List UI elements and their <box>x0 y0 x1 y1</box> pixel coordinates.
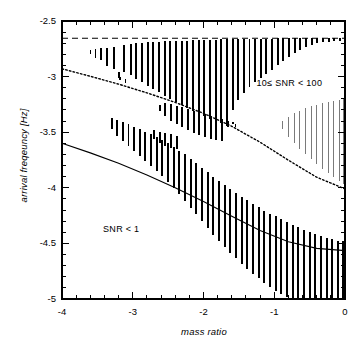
bar-mark <box>220 39 222 123</box>
bar-mark <box>215 117 217 140</box>
bar-mark <box>320 236 322 299</box>
bar-mark <box>184 154 186 201</box>
bar-mark <box>164 133 166 145</box>
bar-mark <box>227 121 229 127</box>
x-tick-label: -2 <box>189 306 219 317</box>
y-tick-label: -4.5 <box>22 237 56 248</box>
bar-mark <box>277 38 279 65</box>
y-tick-label: -3.5 <box>22 126 56 137</box>
bar-mark <box>95 49 96 58</box>
bar-mark <box>326 238 328 299</box>
bar-mark <box>209 40 211 119</box>
bar-mark <box>190 159 192 208</box>
bar-mark <box>271 39 273 70</box>
bar-mark <box>232 39 234 110</box>
bar-mark <box>237 39 239 100</box>
bar-mark <box>343 99 344 184</box>
bar-mark <box>252 204 254 274</box>
bar-mark <box>249 39 251 87</box>
bar-mark <box>303 230 305 300</box>
bar-mark <box>294 113 295 143</box>
bar-mark <box>135 43 137 79</box>
bar-mark <box>164 41 166 95</box>
bar-mark <box>153 130 155 139</box>
bar-mark <box>150 134 152 165</box>
bar-mark <box>241 197 243 264</box>
bar-mark <box>128 124 130 146</box>
bar-mark <box>311 38 313 45</box>
bar-mark <box>309 232 311 299</box>
bar-mark <box>337 241 339 299</box>
chart-canvas <box>0 0 355 343</box>
bar-mark <box>100 48 102 60</box>
bar-mark <box>176 106 178 125</box>
bar-mark <box>125 79 126 83</box>
bar-mark <box>339 100 340 181</box>
bar-mark <box>198 112 200 135</box>
bar-mark <box>282 121 283 129</box>
bar-mark <box>294 38 296 53</box>
bar-mark <box>192 40 194 110</box>
chart-annotation: SNR < 1 <box>103 224 139 234</box>
bar-mark <box>328 38 330 41</box>
bar-mark <box>207 172 209 228</box>
bar-mark <box>288 117 289 137</box>
bar-mark <box>235 193 237 259</box>
bar-mark <box>328 102 329 174</box>
bar-mark <box>215 40 217 122</box>
bar-mark <box>305 108 306 154</box>
bar-mark <box>181 41 183 105</box>
bar-mark <box>187 109 189 130</box>
bar-mark <box>210 116 212 139</box>
bar-mark <box>111 118 113 129</box>
y-tick-label: -2.5 <box>22 15 56 26</box>
bar-mark <box>292 225 294 299</box>
bar-mark <box>164 103 166 116</box>
bar-mark <box>203 40 205 116</box>
bar-mark <box>159 132 161 143</box>
bar-mark <box>186 41 188 108</box>
bar-mark <box>232 122 234 124</box>
bar-mark <box>218 181 220 241</box>
bar-mark <box>265 39 267 74</box>
bar-mark <box>282 38 284 61</box>
bar-mark <box>133 127 135 151</box>
bar-mark <box>178 151 180 195</box>
bar-mark <box>254 39 256 82</box>
y-tick-label: -3 <box>22 71 56 82</box>
x-tick-label: -1 <box>259 306 289 317</box>
bar-mark <box>167 143 169 181</box>
bar-mark <box>224 185 226 247</box>
x-tick-label: 0 <box>330 306 355 317</box>
bar-mark <box>106 48 108 66</box>
bar-mark <box>288 38 290 56</box>
chart-annotation: 10≤ SNR < 100 <box>257 78 323 88</box>
bar-mark <box>147 42 149 85</box>
bar-mark <box>193 111 195 133</box>
bar-mark <box>175 41 177 102</box>
bar-mark <box>152 42 154 89</box>
bar-mark <box>170 104 172 121</box>
y-tick-label: -5 <box>22 293 56 304</box>
bar-mark <box>331 239 333 299</box>
bar-mark <box>311 106 312 159</box>
bar-mark <box>156 137 158 170</box>
bar-mark <box>299 38 301 50</box>
bar-mark <box>322 103 323 169</box>
x-axis-label: mass ratio <box>62 326 346 337</box>
bar-mark <box>139 129 141 156</box>
bar-mark <box>275 216 277 290</box>
bar-mark <box>263 211 265 283</box>
bar-mark <box>314 234 316 299</box>
bar-mark <box>260 39 262 78</box>
bar-mark <box>130 44 132 76</box>
bar-mark <box>258 207 260 278</box>
bar-mark <box>181 107 183 127</box>
bar-mark <box>90 50 91 54</box>
bar-mark <box>113 47 115 69</box>
bar-mark <box>297 227 299 299</box>
bar-mark <box>141 43 143 82</box>
x-tick-label: -3 <box>118 306 148 317</box>
y-axis-label: arrival freqeuncy [Hz] <box>18 81 29 231</box>
bar-mark <box>243 39 245 93</box>
